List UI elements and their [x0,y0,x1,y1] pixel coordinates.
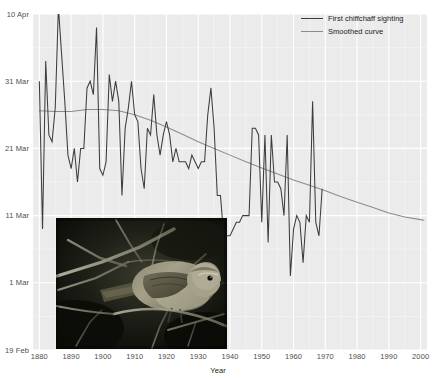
x-axis-tick-label: 1930 [190,352,207,362]
y-axis-ticks: 19 Feb1 Mar11 Mar21 Mar31 Mar10 Apr [0,0,29,379]
x-axis-tick-label: 1940 [221,352,238,362]
smoothed-curve-line [39,109,423,220]
x-axis-ticks: 1880189019001910192019301940195019601970… [0,352,436,366]
x-axis-tick-label: 1900 [94,352,111,362]
x-axis-tick-label: 1920 [158,352,175,362]
y-axis-tick-label: 21 Mar [5,144,29,153]
x-axis-tick-label: 1990 [380,352,397,362]
x-axis-tick-label: 1910 [126,352,143,362]
legend-item-smoothed-curve: Smoothed curve [300,25,432,38]
x-axis-tick-label: 1980 [349,352,366,362]
legend-label-smoothed-curve: Smoothed curve [324,27,383,36]
legend-label-first-sighting: First chiffchaff sighting [324,14,404,23]
chart-figure: 19 Feb1 Mar11 Mar21 Mar31 Mar10 Apr 1880… [0,0,436,379]
legend-item-first-sighting: First chiffchaff sighting [300,12,432,25]
y-axis-tick-label: 1 Mar [9,278,29,287]
y-axis-tick-label: 31 Mar [5,77,29,86]
x-axis-tick-label: 1890 [63,352,80,362]
x-axis-tick-label: 2000 [412,352,429,362]
legend-line-swatch-first-sighting [300,12,324,25]
x-axis-tick-label: 1960 [285,352,302,362]
chart-legend: First chiffchaff sighting Smoothed curve [300,12,432,38]
photo-graphic [56,218,227,349]
y-axis-tick-label: 10 Apr [7,10,29,19]
y-axis-tick-label: 11 Mar [6,211,29,220]
x-axis-title: Year [0,366,436,375]
x-axis-tick-label: 1970 [317,352,334,362]
legend-line-swatch-smoothed-curve [300,25,324,38]
x-axis-tick-label: 1950 [253,352,270,362]
x-axis-tick-label: 1880 [31,352,48,362]
chiffchaff-photograph [56,218,227,349]
